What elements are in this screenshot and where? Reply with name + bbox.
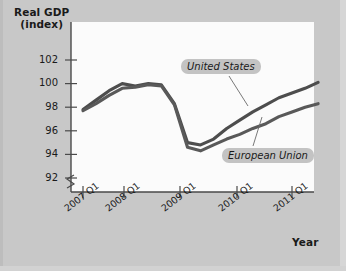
chart-figure: Real GDP (index) Year 102 100 98 96 94 9… <box>0 0 346 271</box>
y-tick-label-94: 94 <box>32 148 58 159</box>
series-label-european-union: European Union <box>222 148 314 163</box>
y-axis-title-line2: (index) <box>14 18 69 30</box>
y-tick-label-92: 92 <box>32 172 58 183</box>
y-tick-label-98: 98 <box>32 101 58 112</box>
y-axis-title-line1: Real GDP <box>14 6 69 18</box>
y-axis-title: Real GDP (index) <box>14 6 69 30</box>
series-label-united-states: United States <box>181 59 261 74</box>
y-tick-label-100: 100 <box>32 77 58 88</box>
y-tick-label-96: 96 <box>32 125 58 136</box>
y-tick-label-102: 102 <box>32 54 58 65</box>
plot-area <box>71 22 314 192</box>
x-axis-title: Year <box>292 236 318 248</box>
